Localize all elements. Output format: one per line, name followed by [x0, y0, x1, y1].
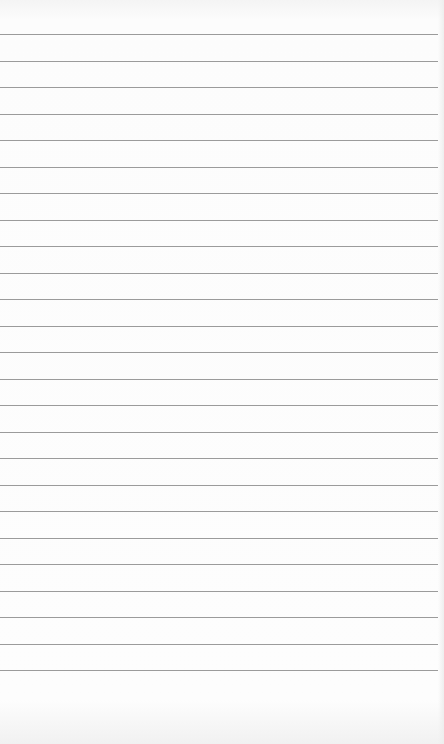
ruled-line — [0, 114, 438, 115]
ruled-line — [0, 644, 438, 645]
ruled-line — [0, 432, 438, 433]
ruled-line — [0, 564, 438, 565]
ruled-line — [0, 140, 438, 141]
ruled-line — [0, 538, 438, 539]
ruled-line — [0, 87, 438, 88]
ruled-line — [0, 458, 438, 459]
ruled-line — [0, 591, 438, 592]
ruled-line — [0, 34, 438, 35]
paper-edge-shadow — [438, 0, 444, 744]
ruled-line — [0, 193, 438, 194]
ruled-line — [0, 246, 438, 247]
ruled-line — [0, 379, 438, 380]
ruled-line — [0, 273, 438, 274]
ruled-line — [0, 299, 438, 300]
ruled-line — [0, 352, 438, 353]
ruled-line — [0, 617, 438, 618]
ruled-line — [0, 511, 438, 512]
ruled-line — [0, 485, 438, 486]
ruled-line — [0, 670, 438, 671]
ruled-line — [0, 61, 438, 62]
ruled-line — [0, 326, 438, 327]
ruled-line — [0, 405, 438, 406]
ruled-line — [0, 167, 438, 168]
ruled-line — [0, 220, 438, 221]
lined-paper-page — [0, 0, 444, 744]
